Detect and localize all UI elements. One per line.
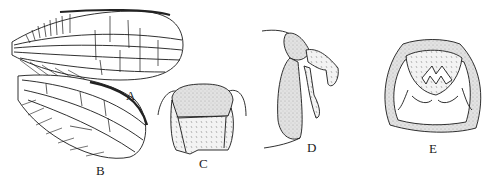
panel-label-d: D <box>307 141 316 154</box>
figure-plate: A B C D E <box>0 0 496 184</box>
plate-illustration <box>0 0 496 184</box>
panel-label-c: C <box>199 157 208 170</box>
panel-label-a: A <box>126 89 135 102</box>
panel-label-e: E <box>429 142 437 155</box>
forewing-drawing <box>12 10 183 81</box>
head-drawing <box>158 84 246 154</box>
genitalia-caudal-drawing <box>385 40 481 133</box>
panel-label-b: B <box>96 164 105 177</box>
genitalia-lateral-drawing <box>262 30 338 148</box>
